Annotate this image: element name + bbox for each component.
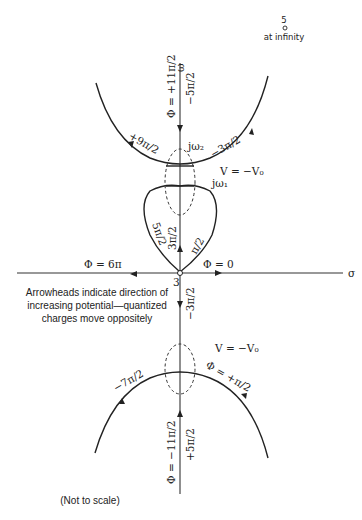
arrow-icon xyxy=(177,410,183,417)
note-line-1: Arrowheads indicate direction of xyxy=(26,287,169,298)
lower-left-arc-label: −7π/2 xyxy=(111,367,145,394)
corner-label-5: 5 xyxy=(281,15,286,25)
lower-right-axis-label: +5π/2 xyxy=(184,428,196,461)
arrow-icon xyxy=(130,271,137,277)
jw2-label: jω₂ xyxy=(186,140,204,152)
note-line-2: increasing potential—quantized xyxy=(27,300,167,311)
note-line-3: charges move oppositely xyxy=(42,313,153,324)
arrow-icon xyxy=(241,393,247,399)
origin-label: 3 xyxy=(173,276,180,288)
upper-right-arc-label: −3π/2 xyxy=(208,133,242,160)
lower-axis-label: −3π/2 xyxy=(184,287,196,320)
not-to-scale-note: (Not to scale) xyxy=(60,495,119,506)
arrow-icon xyxy=(249,128,254,135)
lower-phi-axis-label: Φ = −11π/2 xyxy=(165,421,177,484)
loop-right-label: π/2 xyxy=(187,235,206,256)
upper-u-curve xyxy=(96,76,268,164)
phi-6pi-label: Φ = 6π xyxy=(84,258,122,270)
jw1-label: jω₁ xyxy=(210,177,228,189)
arrow-icon xyxy=(215,270,222,276)
sigma-label: σ xyxy=(348,267,355,279)
origin-point xyxy=(178,271,183,276)
phi-0-label: Φ = 0 xyxy=(203,258,234,270)
upper-phi-axis-label: Φ = +11π/2 xyxy=(165,55,177,118)
lower-v-label: V = −V₀ xyxy=(214,342,259,354)
arrow-icon xyxy=(177,301,183,308)
diagram-canvas: 5 at infinity ω σ Φ = +11π/2 −5π/2 +9π/2… xyxy=(0,0,362,520)
arrow-icon xyxy=(177,125,183,132)
corner-label-infinity: at infinity xyxy=(264,32,304,42)
infinity-point xyxy=(283,26,287,30)
upper-right-axis-label: −5π/2 xyxy=(184,72,196,105)
loop-mid-label: 3π/2 xyxy=(166,226,178,250)
upper-v-label: V = −V₀ xyxy=(219,165,264,177)
upper-left-arc-label: +9π/2 xyxy=(127,129,161,156)
